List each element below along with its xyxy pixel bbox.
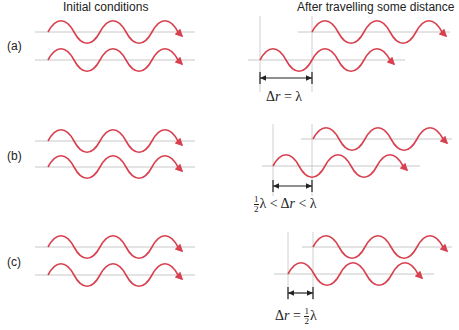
equation-a: Δr = λ <box>266 89 302 105</box>
travelled-waves-b <box>262 124 452 196</box>
wave-diagram <box>0 0 459 330</box>
initial-waves-b <box>35 130 195 179</box>
equation-c: Δr = 12λ <box>275 307 317 326</box>
equation-c-relation: = <box>289 308 304 323</box>
travelled-waves-a <box>248 16 450 92</box>
equation-b-tail: < λ <box>295 196 317 211</box>
equation-a-relation: = λ <box>280 89 302 104</box>
half-fraction: 12 <box>304 307 309 326</box>
equation-c-tail: λ <box>310 308 317 323</box>
delta-symbol: Δ <box>275 308 284 323</box>
delta-symbol: Δ <box>266 89 275 104</box>
initial-waves-c <box>35 236 195 287</box>
equation-b-lead: λ < <box>260 196 281 211</box>
travelled-waves-c <box>274 232 452 300</box>
half-fraction: 12 <box>254 195 259 214</box>
equation-b: 12λ < Δr < λ <box>254 195 317 214</box>
initial-waves-a <box>35 21 195 72</box>
